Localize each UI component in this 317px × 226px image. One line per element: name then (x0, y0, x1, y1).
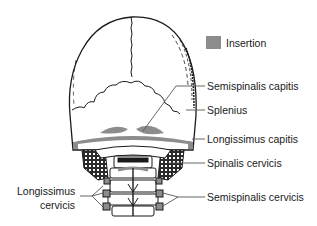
label-longissimus-capitis: Longissimus capitis (207, 133, 298, 145)
label-spinalis-cervicis: Spinalis cervicis (207, 157, 282, 169)
label-splenius: Splenius (207, 104, 247, 116)
anatomy-figure: Insertion Semispinalis capitis Splenius … (0, 0, 317, 226)
label-longissimus-cervicis-line2: cervicis (40, 199, 75, 211)
cervical-vertebrae (95, 146, 171, 216)
label-semispinalis-capitis: Semispinalis capitis (207, 80, 299, 92)
legend-insertion-swatch (206, 36, 221, 49)
skull (69, 17, 196, 150)
label-semispinalis-cervicis: Semispinalis cervicis (207, 191, 304, 203)
legend-insertion-label: Insertion (226, 37, 266, 49)
label-longissimus-cervicis-line1: Longissimus (17, 185, 75, 197)
